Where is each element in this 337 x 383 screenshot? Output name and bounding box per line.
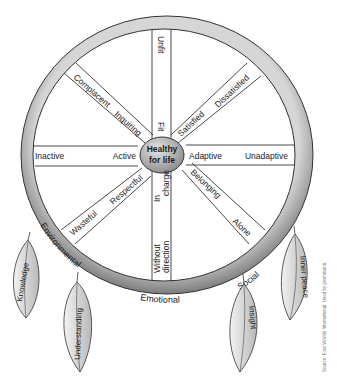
- spoke-label-fit: Fit: [156, 122, 166, 132]
- spoke-label-charge: charge: [161, 170, 171, 196]
- feather-knowledge: Knowledge: [13, 232, 39, 318]
- spoke-label-adaptive: Adaptive: [189, 151, 222, 161]
- spoke-label-unfit: Unfit: [156, 36, 166, 54]
- source-credit: Source: Four Worlds International. Used …: [322, 262, 327, 372]
- spoke-label-inactive: Inactive: [35, 151, 65, 161]
- feather-insight: Insight: [230, 274, 258, 372]
- feather-inner-peace: Inner peace: [281, 226, 310, 320]
- spoke-label-direction: direction: [161, 241, 171, 273]
- spoke-label-active: Active: [113, 151, 136, 161]
- center-label-line2: for life: [149, 155, 175, 165]
- feather-understanding: Understanding: [64, 272, 92, 372]
- medicine-wheel-diagram: Healthy for life Unfit Fit Complacent In…: [0, 0, 337, 383]
- spoke-label-unadaptive: Unadaptive: [245, 151, 288, 161]
- center-label-line1: Healthy: [147, 144, 178, 154]
- feather-label-understanding: Understanding: [73, 308, 84, 360]
